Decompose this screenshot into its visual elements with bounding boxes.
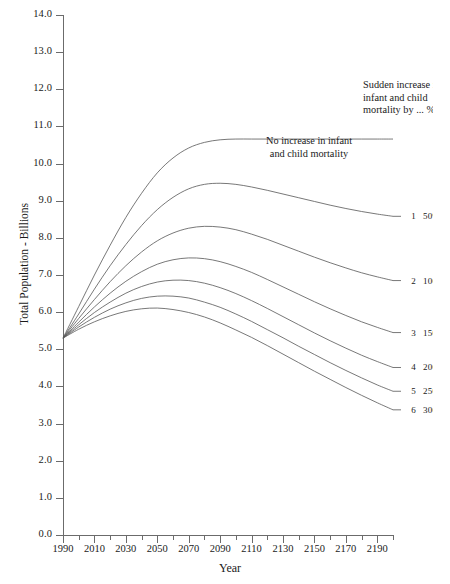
top-edge-strip	[0, 0, 450, 3]
series-line	[63, 226, 393, 338]
x-axis-title: Year	[125, 561, 335, 576]
annotation-line: No increase in infant	[244, 135, 374, 148]
series-label-number: 4	[404, 362, 416, 372]
series-label-number: 6	[404, 405, 416, 415]
annotation-line: and child mortality	[244, 148, 374, 161]
annotation-no-increase: No increase in infantand child mortality	[244, 135, 374, 160]
y-axis-title: Total Population - Billions	[18, 159, 30, 369]
series-label-number: 2	[404, 276, 416, 286]
series-label-number: 1	[404, 211, 416, 221]
series-line	[63, 308, 393, 410]
series-line	[63, 280, 393, 367]
series-line	[63, 296, 393, 391]
series-label-number: 5	[404, 386, 416, 396]
right-edge-clip	[433, 0, 450, 584]
series-label-number: 3	[404, 328, 416, 338]
population-projection-chart: 0.01.02.03.04.05.06.07.08.09.010.011.012…	[0, 0, 450, 584]
